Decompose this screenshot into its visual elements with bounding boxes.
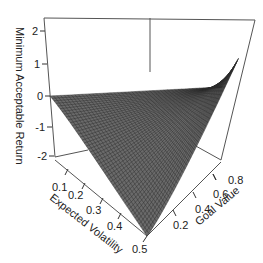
z-tick-2: 2 bbox=[32, 25, 38, 37]
y-tick-0.8: 0.8 bbox=[228, 174, 243, 186]
x-tick-0.2: 0.2 bbox=[68, 189, 83, 201]
x-tick-0.5: 0.5 bbox=[132, 243, 147, 255]
z-tick-0: 0 bbox=[37, 90, 43, 102]
y-axis-tick-labels: 0.2 0.4 0.6 0.8 bbox=[173, 174, 243, 231]
z-axis-tick-labels: 2 1 0 -1 -2 bbox=[32, 25, 47, 162]
z-axis-label: Minimum Acceptable Return bbox=[14, 27, 26, 165]
y-tick-0.2: 0.2 bbox=[173, 219, 188, 231]
surface-plot: 2 1 0 -1 -2 Minimum Acceptable Return 0.… bbox=[0, 0, 263, 263]
z-tick-neg2: -2 bbox=[37, 150, 47, 162]
x-tick-0.3: 0.3 bbox=[86, 204, 101, 216]
z-tick-1: 1 bbox=[34, 58, 40, 70]
z-tick-neg1: -1 bbox=[35, 121, 45, 133]
x-tick-0.4: 0.4 bbox=[107, 220, 122, 232]
